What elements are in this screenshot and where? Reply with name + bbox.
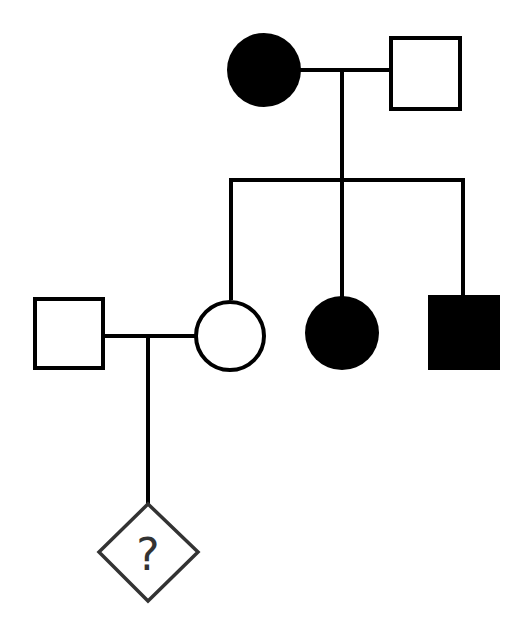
unknown-status-label: ? <box>136 529 159 580</box>
individual-II-2-unaffected-female <box>196 302 264 370</box>
individual-I-1-affected-female <box>227 33 301 107</box>
individual-II-3-affected-female <box>305 296 379 370</box>
pedigree-diagram: ? <box>0 0 521 631</box>
individual-II-4-affected-male <box>428 295 500 370</box>
individual-II-1-unaffected-male <box>35 299 103 368</box>
individual-I-2-unaffected-male <box>391 38 460 109</box>
sibship-line-gen2 <box>231 180 463 300</box>
